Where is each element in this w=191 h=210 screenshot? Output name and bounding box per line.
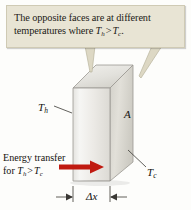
energy-operator: >	[26, 165, 34, 176]
energy-sub-cold: c	[40, 170, 43, 177]
label-hot-sub: h	[44, 106, 48, 115]
label-area: A	[124, 108, 131, 120]
label-thickness: Δx	[86, 190, 97, 202]
callout-text: The opposite faces are at different temp…	[14, 11, 180, 41]
slab-front-face	[73, 88, 110, 181]
energy-transfer-line-2-prefix: for	[3, 165, 17, 176]
callout-line-2-prefix: temperatures where	[14, 25, 96, 36]
callout-line-1: The opposite faces are at different	[14, 12, 151, 23]
heat-conduction-figure: The opposite faces are at different temp…	[0, 0, 191, 210]
energy-transfer-caption: Energy transfer for Th>Tc	[3, 152, 65, 180]
label-cold-sub: c	[153, 171, 156, 180]
label-cold-temperature: Tc	[147, 166, 156, 180]
callout-line-2-suffix: .	[121, 25, 123, 36]
label-area-var: A	[124, 108, 131, 120]
label-thickness-var: Δx	[86, 190, 97, 202]
slab-shadow	[70, 180, 130, 186]
callout-box: The opposite faces are at different temp…	[6, 5, 185, 48]
label-hot-temperature: Th	[38, 101, 48, 115]
energy-transfer-line-1: Energy transfer	[3, 152, 65, 163]
